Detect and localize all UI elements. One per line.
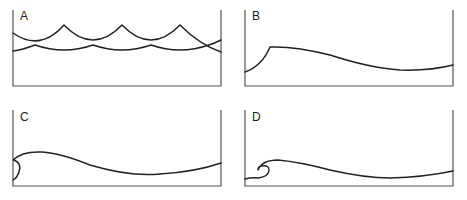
panel-b-frame <box>245 10 453 86</box>
panel-b-wave <box>245 47 453 72</box>
panel-d-label: D <box>252 110 261 124</box>
panel-c-frame <box>13 110 221 186</box>
panel-a: A <box>13 9 221 86</box>
panel-c-label: C <box>20 110 29 124</box>
panel-b-label: B <box>252 9 260 23</box>
panel-d-wave <box>245 160 453 179</box>
panel-c: C <box>13 110 221 186</box>
panel-a-wave-2 <box>13 40 221 51</box>
wave-breaking-diagram: A B C D <box>0 0 467 200</box>
panel-a-label: A <box>20 9 28 23</box>
panel-c-wave <box>13 152 221 175</box>
panel-d: D <box>245 110 453 186</box>
panel-b: B <box>245 9 453 86</box>
panel-c-curl <box>13 160 20 180</box>
